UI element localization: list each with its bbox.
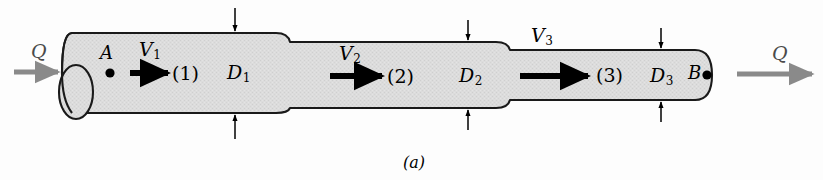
point-a-marker bbox=[105, 68, 114, 77]
figure-caption: (a) bbox=[403, 155, 425, 171]
velocity-subscript-3: 3 bbox=[545, 34, 553, 48]
velocity-label-1: V1 bbox=[139, 40, 161, 61]
velocity-symbol-3: V bbox=[531, 24, 545, 46]
outlet-flow-label: Q bbox=[772, 44, 788, 63]
section-label-2: (2) bbox=[387, 67, 414, 86]
section-label-3: (3) bbox=[596, 66, 623, 85]
point-b-label: B bbox=[688, 64, 701, 82]
point-a-label: A bbox=[100, 44, 113, 62]
diameter-subscript-3: 3 bbox=[665, 74, 673, 88]
diameter-subscript-2: 2 bbox=[474, 74, 482, 88]
pipe-flow-figure: Q Q A B V1 (1) D1 V2 (2) D2 V3 (3) D3 (a… bbox=[0, 0, 823, 180]
velocity-symbol-1: V bbox=[139, 38, 153, 60]
velocity-subscript-1: 1 bbox=[153, 48, 161, 62]
diameter-label-1: D1 bbox=[227, 63, 250, 84]
inlet-flow-label: Q bbox=[31, 42, 47, 61]
diameter-label-3: D3 bbox=[650, 66, 673, 87]
velocity-label-3: V3 bbox=[531, 26, 553, 47]
point-b-marker bbox=[702, 70, 711, 79]
velocity-symbol-2: V bbox=[339, 42, 353, 64]
diameter-symbol-1: D bbox=[227, 61, 242, 83]
diameter-label-2: D2 bbox=[459, 66, 482, 87]
diameter-subscript-1: 1 bbox=[242, 71, 250, 85]
diameter-symbol-3: D bbox=[650, 64, 665, 86]
diameter-symbol-2: D bbox=[459, 64, 474, 86]
velocity-subscript-2: 2 bbox=[353, 52, 361, 66]
velocity-label-2: V2 bbox=[339, 44, 361, 65]
section-label-1: (1) bbox=[172, 64, 199, 83]
